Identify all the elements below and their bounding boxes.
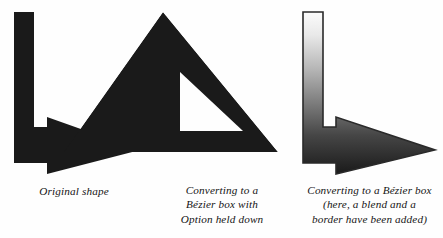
- caption-option-held-down: Converting to a Bézier box with Option h…: [148, 180, 296, 226]
- caption-row: Original shape Converting to a Bézier bo…: [0, 180, 443, 238]
- caption-line: Bézier box with: [150, 197, 294, 211]
- caption-line: Option held down: [150, 212, 294, 226]
- panel-blend-shape: [303, 12, 435, 174]
- artwork-layer: [0, 0, 443, 180]
- triangle-bezier-box-shape: [64, 12, 278, 152]
- caption-line: Original shape: [2, 184, 146, 198]
- caption-blend-and-border: Converting to a Bézier box (here, a blen…: [296, 180, 443, 226]
- caption-line: border have been added): [298, 212, 441, 226]
- l-arrow-shape-blended: [303, 12, 435, 174]
- caption-line: Converting to a: [150, 183, 294, 197]
- figure-artwork: [0, 0, 443, 180]
- panel-option-shape: [64, 12, 278, 152]
- caption-line: Converting to a Bézier box: [298, 183, 441, 197]
- caption-line: (here, a blend and a: [298, 197, 441, 211]
- figure-root: Original shape Converting to a Bézier bo…: [0, 0, 443, 238]
- caption-original-shape: Original shape: [0, 180, 148, 198]
